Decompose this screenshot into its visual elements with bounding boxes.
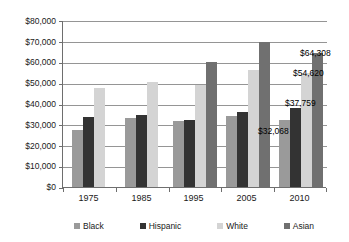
x-tick-sep-5 bbox=[326, 188, 327, 192]
bar-1995-white bbox=[195, 85, 206, 187]
x-tick-sep-1 bbox=[116, 188, 117, 192]
bar-2010-white bbox=[301, 73, 312, 187]
x-tick-sep-3 bbox=[221, 188, 222, 192]
x-axis-label-1985: 1985 bbox=[115, 193, 168, 203]
legend-item-black: Black bbox=[74, 221, 104, 231]
chart-legend: Black Hispanic White Asian bbox=[62, 218, 326, 234]
x-tick-sep-2 bbox=[169, 188, 170, 192]
y-axis-label-40000: $40,000 bbox=[25, 100, 56, 109]
bar-1975-black bbox=[72, 130, 83, 187]
bar-1985-black bbox=[125, 118, 136, 187]
bar-1995-asian bbox=[206, 62, 217, 188]
legend-swatch-icon-black bbox=[74, 223, 80, 229]
y-axis-label-80000: $80,000 bbox=[25, 17, 56, 26]
x-tick-sep-0 bbox=[63, 188, 64, 192]
legend-item-white: White bbox=[217, 221, 248, 231]
bar-1995-hispanic bbox=[184, 120, 195, 187]
legend-label-black: Black bbox=[83, 221, 104, 231]
y-tick-40000 bbox=[59, 105, 63, 106]
bar-2010-hispanic bbox=[290, 108, 301, 187]
bar-1985-white bbox=[147, 82, 158, 187]
y-tick-20000 bbox=[59, 146, 63, 147]
bar-2005-hispanic bbox=[237, 112, 248, 187]
data-label-white-2010: $54,620 bbox=[293, 69, 324, 78]
x-tick-sep-4 bbox=[274, 188, 275, 192]
bar-1995-black bbox=[173, 121, 184, 187]
legend-swatch-icon-white bbox=[217, 223, 223, 229]
bar-2005-black bbox=[226, 116, 237, 187]
gridline-70000 bbox=[63, 42, 327, 43]
bar-2005-asian bbox=[259, 42, 270, 187]
y-axis-label-60000: $60,000 bbox=[25, 58, 56, 67]
y-tick-30000 bbox=[59, 125, 63, 126]
legend-label-hispanic: Hispanic bbox=[149, 221, 182, 231]
y-axis-label-70000: $70,000 bbox=[25, 38, 56, 47]
y-tick-70000 bbox=[59, 42, 63, 43]
data-label-asian-2010: $64,308 bbox=[300, 49, 331, 58]
y-tick-60000 bbox=[59, 63, 63, 64]
bar-1975-hispanic bbox=[83, 117, 94, 187]
bar-1985-hispanic bbox=[136, 115, 147, 187]
gridline-60000 bbox=[63, 63, 327, 64]
bar-1975-white bbox=[94, 88, 105, 187]
y-axis-label-20000: $20,000 bbox=[25, 142, 56, 151]
bar-chart: $80,000 $70,000 $60,000 $50,000 $40,000 … bbox=[0, 0, 349, 242]
legend-swatch-icon-hispanic bbox=[140, 223, 146, 229]
y-axis-label-30000: $30,000 bbox=[25, 121, 56, 130]
data-label-black-2010: $32,068 bbox=[258, 127, 289, 136]
y-axis-label-10000: $10,000 bbox=[25, 162, 56, 171]
y-tick-50000 bbox=[59, 84, 63, 85]
x-axis-label-2005: 2005 bbox=[220, 193, 273, 203]
y-tick-80000 bbox=[59, 21, 63, 22]
legend-item-asian: Asian bbox=[284, 221, 314, 231]
y-tick-10000 bbox=[59, 167, 63, 168]
y-axis-label-50000: $50,000 bbox=[25, 79, 56, 88]
legend-item-hispanic: Hispanic bbox=[140, 221, 182, 231]
legend-label-asian: Asian bbox=[293, 221, 314, 231]
legend-swatch-icon-asian bbox=[284, 223, 290, 229]
legend-label-white: White bbox=[226, 221, 248, 231]
x-axis-label-1975: 1975 bbox=[62, 193, 115, 203]
y-axis-label-0: $0 bbox=[47, 183, 56, 192]
data-label-hispanic-2010: $37,759 bbox=[285, 99, 316, 108]
gridline-80000 bbox=[63, 21, 327, 22]
x-axis-label-2010: 2010 bbox=[273, 193, 326, 203]
x-axis-label-1995: 1995 bbox=[167, 193, 220, 203]
